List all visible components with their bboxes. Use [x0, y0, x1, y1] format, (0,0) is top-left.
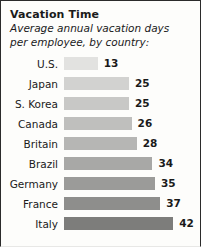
country-label: Japan	[1, 74, 58, 94]
bar	[64, 217, 173, 230]
bar-value-label: 25	[135, 97, 150, 110]
bar	[64, 157, 152, 170]
bar-track: 35	[64, 177, 200, 190]
bar-row: Japan25	[1, 74, 200, 94]
bar-row: France37	[1, 194, 200, 214]
country-label: Italy	[1, 214, 58, 234]
country-label: Canada	[1, 114, 58, 134]
bar-value-label: 34	[158, 157, 173, 170]
bar-track: 28	[64, 137, 200, 150]
bar-row: Britain28	[1, 134, 200, 154]
bar-value-label: 42	[179, 217, 194, 230]
bar-track: 25	[64, 97, 200, 110]
chart-subtitle-line-1: Average annual vacation days	[10, 22, 169, 34]
bar-value-label: 26	[138, 117, 153, 130]
country-label: Germany	[1, 174, 58, 194]
bar-track: 42	[64, 217, 200, 230]
bar	[64, 117, 132, 130]
bar-chart-plot-area: U.S.13Japan25S. Korea25Canada26Britain28…	[1, 54, 200, 234]
vacation-time-chart-card: Vacation Time Average annual vacation da…	[0, 0, 201, 247]
country-label: Brazil	[1, 154, 58, 174]
bar-row: Canada26	[1, 114, 200, 134]
country-label: S. Korea	[1, 94, 58, 114]
bar-value-label: 37	[166, 197, 181, 210]
bar	[64, 197, 160, 210]
chart-subtitle-line-2: per employee, by country:	[10, 36, 149, 48]
bar-track: 34	[64, 157, 200, 170]
bar-value-label: 13	[104, 57, 119, 70]
bar-row: U.S.13	[1, 54, 200, 74]
bar-row: Germany35	[1, 174, 200, 194]
chart-header: Vacation Time Average annual vacation da…	[1, 1, 200, 49]
bar	[64, 57, 98, 70]
bar-track: 25	[64, 77, 200, 90]
bar	[64, 137, 137, 150]
bar-track: 26	[64, 117, 200, 130]
bar-track: 13	[64, 57, 200, 70]
bar	[64, 97, 129, 110]
bar-row: Brazil34	[1, 154, 200, 174]
bar	[64, 177, 155, 190]
country-label: France	[1, 194, 58, 214]
bar	[64, 77, 129, 90]
bar-value-label: 35	[161, 177, 176, 190]
chart-title: Vacation Time	[10, 8, 191, 21]
country-label: U.S.	[1, 54, 58, 74]
bar-row: S. Korea25	[1, 94, 200, 114]
bar-row: Italy42	[1, 214, 200, 234]
chart-subtitle: Average annual vacation days per employe…	[10, 22, 180, 49]
bar-track: 37	[64, 197, 200, 210]
bar-value-label: 28	[143, 137, 158, 150]
country-label: Britain	[1, 134, 58, 154]
bar-value-label: 25	[135, 77, 150, 90]
